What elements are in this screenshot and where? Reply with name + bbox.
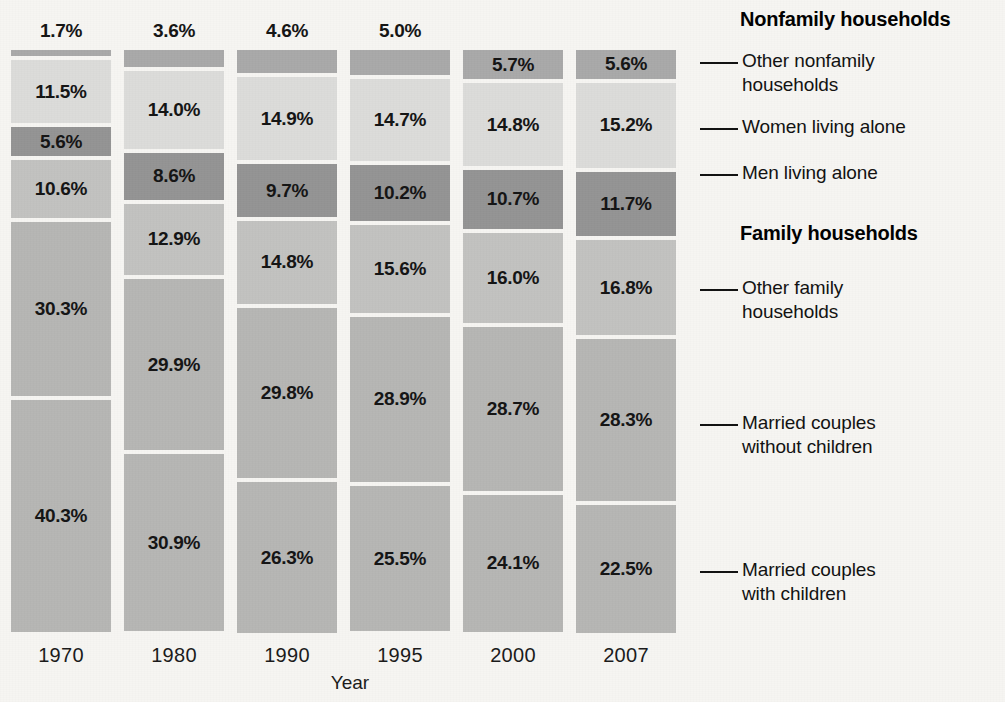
segment-value-label: 14.0% xyxy=(148,99,200,121)
legend-entry-line1: Other nonfamily xyxy=(742,49,1000,73)
segment-value-label: 26.3% xyxy=(261,547,313,569)
x-axis-tick-2007: 2007 xyxy=(576,644,676,667)
segment-value-label: 10.6% xyxy=(35,178,87,200)
callout-leader-line xyxy=(700,62,738,64)
bar-segment: 26.3% xyxy=(237,482,337,632)
segment-value-label: 30.9% xyxy=(148,532,200,554)
bar-segment: 4.6% xyxy=(237,50,337,73)
segment-value-label: 5.0% xyxy=(350,20,450,42)
segment-value-label: 14.7% xyxy=(374,109,426,131)
segment-value-label: 4.6% xyxy=(237,20,337,42)
segment-value-label: 24.1% xyxy=(487,552,539,574)
legend-entry-line1: Other family xyxy=(742,276,1000,300)
legend-entry-line2: households xyxy=(742,300,1000,324)
legend-entry-label: Married coupleswith children xyxy=(742,558,1000,606)
bar-segment: 16.0% xyxy=(463,233,563,323)
bar-segment: 28.9% xyxy=(350,317,450,482)
segment-value-label: 28.7% xyxy=(487,398,539,420)
bar-segment: 10.7% xyxy=(463,170,563,229)
bar-segment: 5.0% xyxy=(350,50,450,75)
segment-value-label: 25.5% xyxy=(374,548,426,570)
plot-area: 1.7%11.5%5.6%10.6%30.3%40.3%19703.6%14.0… xyxy=(0,0,700,702)
bar-segment: 1.7% xyxy=(11,50,111,56)
bar-segment: 14.9% xyxy=(237,77,337,160)
segment-value-label: 29.8% xyxy=(261,382,313,404)
bar-segment: 8.6% xyxy=(124,153,224,199)
bar-segment: 5.6% xyxy=(576,50,676,79)
segment-value-label: 16.0% xyxy=(487,267,539,289)
segment-value-label: 5.6% xyxy=(605,53,647,75)
bar-segment: 5.6% xyxy=(11,127,111,156)
bar-segment: 15.6% xyxy=(350,225,450,312)
stacked-bar-chart: 1.7%11.5%5.6%10.6%30.3%40.3%19703.6%14.0… xyxy=(0,0,1005,702)
bar-column-1980: 3.6%14.0%8.6%12.9%29.9%30.9% xyxy=(124,0,224,636)
segment-value-label: 16.8% xyxy=(600,277,652,299)
legend-entry-line1: Married couples xyxy=(742,411,1000,435)
segment-value-label: 15.2% xyxy=(600,114,652,136)
bar-segment: 10.2% xyxy=(350,165,450,221)
bar-segment: 30.3% xyxy=(11,222,111,396)
callout-leader-line xyxy=(700,289,738,291)
callout-leader-line xyxy=(700,571,738,573)
legend-entry-line1: Men living alone xyxy=(742,161,1000,185)
bar-column-2007: 5.6%15.2%11.7%16.8%28.3%22.5% xyxy=(576,0,676,636)
legend-entry-line1: Women living alone xyxy=(742,115,1000,139)
segment-value-label: 5.6% xyxy=(40,131,82,153)
callout-leader-line xyxy=(700,128,738,130)
legend-entry-label: Other familyhouseholds xyxy=(742,276,1000,324)
bar-column-1990: 4.6%14.9%9.7%14.8%29.8%26.3% xyxy=(237,0,337,636)
legend-entry-line2: without children xyxy=(742,435,1000,459)
x-axis-title: Year xyxy=(0,672,700,694)
segment-value-label: 11.7% xyxy=(600,193,651,215)
bar-segment: 22.5% xyxy=(576,505,676,633)
legend-entry-label: Married coupleswithout children xyxy=(742,411,1000,459)
bar-segment: 29.8% xyxy=(237,308,337,479)
segment-value-label: 30.3% xyxy=(35,298,87,320)
legend-entry-label: Women living alone xyxy=(742,115,1000,139)
bar-segment: 12.9% xyxy=(124,204,224,276)
segment-value-label: 5.7% xyxy=(492,54,534,76)
legend-group-title: Nonfamily households xyxy=(740,8,950,31)
segment-value-label: 3.6% xyxy=(124,20,224,42)
bar-segment: 11.7% xyxy=(576,172,676,237)
segment-value-label: 14.9% xyxy=(261,108,313,130)
callout-leader-line xyxy=(700,424,738,426)
bar-segment: 14.8% xyxy=(237,221,337,304)
segment-value-label: 40.3% xyxy=(35,505,87,527)
bar-segment: 9.7% xyxy=(237,164,337,217)
legend-entry-label: Men living alone xyxy=(742,161,1000,185)
segment-value-label: 22.5% xyxy=(600,558,652,580)
bar-segment: 30.9% xyxy=(124,454,224,631)
legend-entry-label: Other nonfamilyhouseholds xyxy=(742,49,1000,97)
bar-segment: 5.7% xyxy=(463,50,563,79)
bar-segment: 28.7% xyxy=(463,327,563,491)
x-axis-tick-1970: 1970 xyxy=(11,644,111,667)
bar-segment: 28.3% xyxy=(576,339,676,501)
bar-segment: 40.3% xyxy=(11,400,111,632)
segment-value-label: 28.3% xyxy=(600,409,652,431)
segment-value-label: 14.8% xyxy=(261,251,313,273)
legend-group-title: Family households xyxy=(740,222,918,245)
bar-segment: 15.2% xyxy=(576,83,676,168)
bar-segment: 14.8% xyxy=(463,83,563,166)
segment-value-label: 28.9% xyxy=(374,388,426,410)
bar-segment: 10.6% xyxy=(11,160,111,218)
segment-value-label: 14.8% xyxy=(487,114,539,136)
x-axis-tick-1980: 1980 xyxy=(124,644,224,667)
bar-segment: 24.1% xyxy=(463,495,563,632)
bar-column-1995: 5.0%14.7%10.2%15.6%28.9%25.5% xyxy=(350,0,450,636)
segment-value-label: 1.7% xyxy=(11,20,111,42)
bar-segment: 11.5% xyxy=(11,60,111,123)
bar-segment: 3.6% xyxy=(124,50,224,67)
legend-entry-line1: Married couples xyxy=(742,558,1000,582)
segment-value-label: 9.7% xyxy=(266,180,308,202)
segment-value-label: 10.7% xyxy=(487,188,539,210)
segment-value-label: 15.6% xyxy=(374,258,426,280)
segment-value-label: 10.2% xyxy=(374,182,426,204)
bar-segment: 25.5% xyxy=(350,486,450,631)
bar-segment: 14.7% xyxy=(350,79,450,161)
callout-leader-line xyxy=(700,174,738,176)
segment-value-label: 8.6% xyxy=(153,165,195,187)
segment-value-label: 12.9% xyxy=(148,228,200,250)
legend-entry-line2: with children xyxy=(742,582,1000,606)
